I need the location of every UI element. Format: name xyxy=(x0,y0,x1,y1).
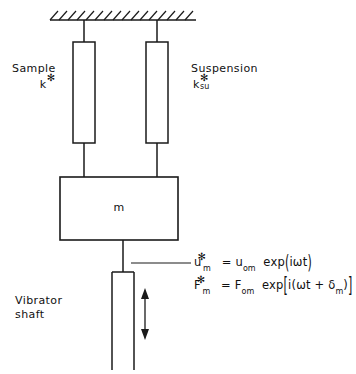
mass-symbol-label: m xyxy=(0,201,238,215)
sample-label: Sample k✻ xyxy=(12,62,74,92)
force-lhs-subscript: m xyxy=(202,287,210,296)
displacement-equation: u✻m = uom exp(iωt) xyxy=(194,252,312,271)
vibrator-shaft-label: Vibrator shaft xyxy=(15,294,62,322)
displacement-open-paren: ( xyxy=(285,251,290,274)
suspension-label: Suspension k✻su xyxy=(191,62,258,92)
force-argument-delta-subscript: m xyxy=(336,287,344,296)
force-exp-label: exp xyxy=(262,278,284,292)
sample-stiffness-symbol: k✻ xyxy=(12,78,74,92)
force-open-bracket: [ xyxy=(284,273,289,298)
sample-k-star: ✻ xyxy=(47,72,56,85)
motion-arrow-icon xyxy=(141,288,149,340)
suspension-k-base: k xyxy=(193,78,200,91)
force-argument-prefix: i(ωt + xyxy=(288,278,328,292)
ceiling-support xyxy=(50,11,196,20)
vibrator-label-line1: Vibrator xyxy=(15,294,62,307)
vibrator-shaft xyxy=(112,272,134,370)
sample-element xyxy=(73,20,95,177)
force-equals: = xyxy=(221,278,231,292)
displacement-lhs-subscript: m xyxy=(203,264,211,273)
displacement-close-paren: ) xyxy=(307,251,312,274)
suspension-k-subscript: su xyxy=(200,82,209,92)
force-lhs-star: ✻ xyxy=(197,274,206,285)
displacement-amplitude-base: u xyxy=(235,255,243,269)
ceiling-hatch-icon xyxy=(50,11,193,20)
vibrator-label-line2: shaft xyxy=(15,308,62,322)
force-amplitude-base: F xyxy=(235,278,242,292)
force-argument-delta: δ xyxy=(328,278,335,292)
displacement-equals: = xyxy=(222,255,232,269)
vibration-model-diagram: Sample k✻ Suspension k✻su m Vibrator sha… xyxy=(0,0,356,374)
suspension-element xyxy=(146,20,168,177)
suspension-stiffness-symbol: k✻su xyxy=(191,78,258,92)
force-amplitude-subscript: om xyxy=(242,287,255,296)
displacement-exp-label: exp xyxy=(263,255,285,269)
sample-k-base: k xyxy=(40,78,47,91)
displacement-lhs-star: ✻ xyxy=(198,251,207,262)
displacement-amplitude-subscript: om xyxy=(243,264,256,273)
force-equation: F✻m = Fom exp[i(ωt + δm)] xyxy=(194,275,353,294)
force-close-bracket: ] xyxy=(348,273,353,298)
displacement-argument: iωt xyxy=(289,255,307,269)
